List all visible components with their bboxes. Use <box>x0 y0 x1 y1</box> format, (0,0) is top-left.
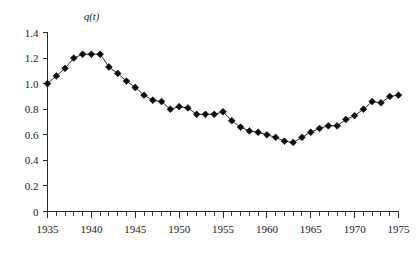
x-tick-label: 1975 <box>388 223 411 235</box>
y-tick-label: 0.4 <box>25 154 39 166</box>
chart-background <box>0 0 417 256</box>
x-tick-label: 1945 <box>124 223 147 235</box>
x-tick-label: 1970 <box>344 223 367 235</box>
y-tick-label: 0.6 <box>25 129 39 141</box>
x-tick-label: 1935 <box>37 223 60 235</box>
x-tick-label: 1955 <box>212 223 235 235</box>
x-tick-label: 1965 <box>300 223 323 235</box>
x-tick-label: 1960 <box>256 223 279 235</box>
x-tick-label: 1950 <box>168 223 191 235</box>
y-tick-label: 1.2 <box>25 52 39 64</box>
y-tick-label: 0.8 <box>25 103 39 115</box>
y-tick-label: 1.4 <box>25 27 39 39</box>
line-chart-plot: 00.20.40.60.81.01.21.4 19351940194519501… <box>0 0 417 256</box>
chart-figure: 00.20.40.60.81.01.21.4 19351940194519501… <box>0 0 417 256</box>
x-axis-tick-labels: 193519401945195019551960196519701975 <box>37 223 411 235</box>
y-tick-label: 0.2 <box>25 180 39 192</box>
y-tick-label: 0 <box>33 206 39 218</box>
y-tick-label: 1.0 <box>25 78 39 90</box>
x-tick-label: 1940 <box>80 223 103 235</box>
y-axis-title: q(t) <box>84 11 100 23</box>
